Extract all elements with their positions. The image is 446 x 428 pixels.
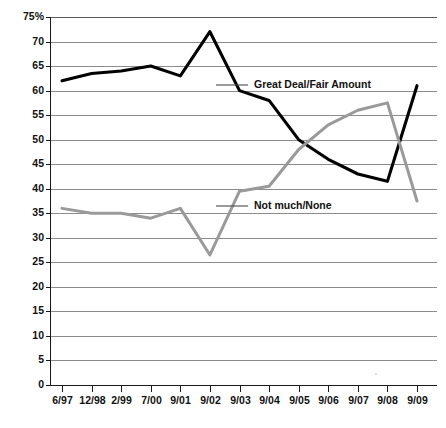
y-axis-labels-group: 051015202530354045505560657075%	[23, 10, 45, 390]
x-axis-label: 9/09	[407, 394, 428, 406]
y-axis-label: 40	[32, 182, 44, 194]
scan-speck	[375, 373, 377, 375]
x-axis-label: 2/99	[111, 394, 132, 406]
y-axis-label: 75%	[23, 10, 45, 22]
x-axis-labels-group: 6/9712/982/997/009/019/029/039/049/059/0…	[52, 394, 428, 406]
y-axis-label: 50	[32, 133, 44, 145]
y-axis-label: 5	[38, 353, 44, 365]
y-axis-label: 45	[32, 157, 44, 169]
chart-container: 051015202530354045505560657075% 6/9712/9…	[0, 0, 446, 428]
x-axis-label: 9/04	[259, 394, 280, 406]
x-axis-label: 12/98	[79, 394, 105, 406]
y-axis-label: 65	[32, 59, 44, 71]
series-line-great-deal-fair-amount	[62, 32, 417, 182]
y-axis-label: 30	[32, 231, 44, 243]
x-axis-label: 9/06	[318, 394, 339, 406]
y-axis-label: 70	[32, 35, 44, 47]
y-axis-label: 15	[32, 304, 44, 316]
series-line-not-much-none	[62, 103, 417, 255]
series-annotation-label: Not much/None	[254, 199, 332, 211]
x-axis-label: 9/01	[170, 394, 191, 406]
y-axis-label: 25	[32, 255, 44, 267]
y-axis-label: 55	[32, 108, 44, 120]
x-axis-label: 6/97	[52, 394, 73, 406]
x-axis-label: 9/05	[289, 394, 310, 406]
x-axis-label: 9/07	[348, 394, 369, 406]
y-axis-label: 60	[32, 84, 44, 96]
y-axis-label: 35	[32, 206, 44, 218]
line-chart: 051015202530354045505560657075% 6/9712/9…	[0, 0, 446, 428]
x-axis-label: 9/02	[200, 394, 221, 406]
x-axis-label: 7/00	[141, 394, 162, 406]
series-annotation-label: Great Deal/Fair Amount	[254, 78, 371, 90]
y-axis-label: 20	[32, 280, 44, 292]
y-axis-label: 0	[38, 378, 44, 390]
x-axis-label: 9/08	[377, 394, 398, 406]
x-axis-label: 9/03	[230, 394, 251, 406]
series-group	[62, 32, 417, 255]
y-axis-label: 10	[32, 329, 44, 341]
